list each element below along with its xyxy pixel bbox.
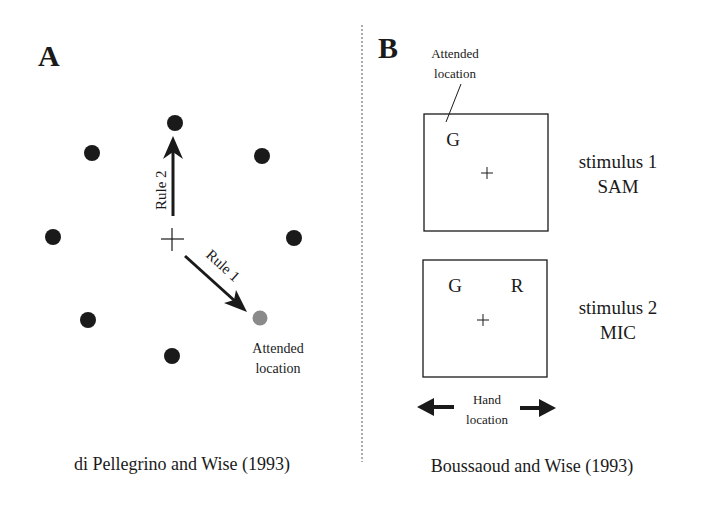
hand-left-arrow-icon bbox=[417, 398, 454, 416]
panel-b-label: B bbox=[378, 31, 398, 64]
stimulus1-label-line1: stimulus 1 bbox=[579, 151, 658, 172]
dot-right bbox=[286, 230, 302, 246]
stimulus2-letter-r: R bbox=[511, 275, 524, 296]
caption-a: di Pellegrino and Wise (1993) bbox=[74, 454, 290, 475]
attended-label-b-line2: location bbox=[434, 66, 476, 81]
attended-dot bbox=[253, 311, 268, 326]
dot-top bbox=[167, 115, 183, 131]
attended-label-b-line1: Attended bbox=[431, 46, 479, 61]
attended-label-a-line2: location bbox=[255, 361, 300, 376]
stimulus2-box: G R bbox=[423, 260, 547, 377]
caption-b: Boussaoud and Wise (1993) bbox=[431, 456, 633, 477]
stimulus1-letter-g: G bbox=[446, 129, 460, 150]
dot-upper-left bbox=[84, 145, 100, 161]
hand-right-arrow-icon bbox=[520, 399, 556, 417]
stimulus2-label-line1: stimulus 2 bbox=[579, 297, 658, 318]
rule2-label: Rule 2 bbox=[153, 170, 169, 210]
dot-left bbox=[45, 229, 61, 245]
dot-lower-left bbox=[80, 312, 96, 328]
fixation-cross-a bbox=[161, 228, 184, 251]
dot-upper-right bbox=[254, 148, 270, 164]
stimulus2-letter-g: G bbox=[448, 275, 462, 296]
panel-a-label: A bbox=[38, 39, 60, 72]
stimulus1-box: G bbox=[424, 114, 548, 231]
figure: A Rule 2 Rule 1 Attended location di Pel… bbox=[0, 0, 718, 511]
attended-pointer-line bbox=[446, 84, 461, 122]
stimulus2-label-line2: MIC bbox=[600, 322, 636, 343]
stimulus1-label-line2: SAM bbox=[597, 176, 638, 197]
hand-label-line1: Hand bbox=[473, 392, 502, 407]
attended-label-a-line1: Attended bbox=[252, 341, 303, 356]
dot-bottom bbox=[164, 348, 180, 364]
hand-label-line2: location bbox=[466, 412, 508, 427]
